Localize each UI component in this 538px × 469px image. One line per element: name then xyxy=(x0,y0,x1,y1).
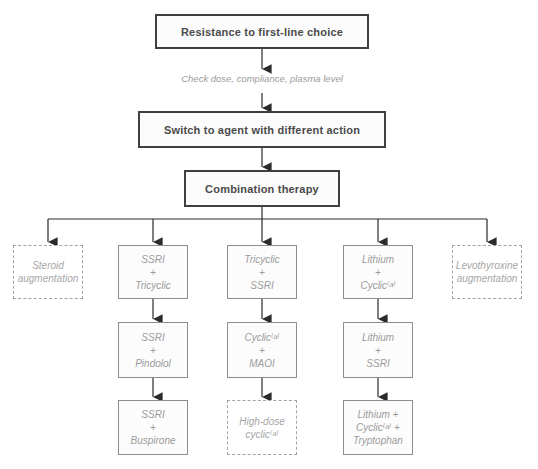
node-label: Tricyclic + SSRI xyxy=(228,253,296,292)
node-label: SSRI + Pindolol xyxy=(119,331,187,370)
node-label: Combination therapy xyxy=(186,183,338,195)
node-ssri-pindolol: SSRI + Pindolol xyxy=(118,322,188,378)
node-label: Lithium + SSRI xyxy=(344,331,412,370)
node-label: High-dose cyclic⁽ᵃ⁾ xyxy=(228,415,296,441)
node-tricyclic-ssri: Tricyclic + SSRI xyxy=(227,245,297,299)
node-levothyroxine-augmentation: Levothyroxine augmentation xyxy=(452,245,522,299)
node-switch-agent: Switch to agent with different action xyxy=(138,111,386,148)
node-high-dose-cyclic: High-dose cyclic⁽ᵃ⁾ xyxy=(227,400,297,455)
node-steroid-augmentation: Steroid augmentation xyxy=(13,245,83,299)
node-label: Lithium + Cyclic⁽ᵃ⁾ xyxy=(344,253,412,292)
node-label: Steroid augmentation xyxy=(14,259,82,285)
node-resistance-first-line: Resistance to first-line choice xyxy=(155,14,369,49)
node-combination-therapy: Combination therapy xyxy=(184,170,340,207)
node-cyclic-maoi: Cyclic⁽ᵃ⁾ + MAOI xyxy=(227,322,297,378)
node-label: Levothyroxine augmentation xyxy=(453,259,521,285)
node-label: Lithium + Cyclic⁽ᵃ⁾ + Tryptophan xyxy=(344,408,412,447)
node-lithium-cyclic: Lithium + Cyclic⁽ᵃ⁾ xyxy=(343,245,413,299)
node-lithium-cyclic-tryptophan: Lithium + Cyclic⁽ᵃ⁾ + Tryptophan xyxy=(343,400,413,455)
node-label: Resistance to first-line choice xyxy=(157,26,367,38)
node-lithium-ssri: Lithium + SSRI xyxy=(343,322,413,378)
connector-arrows xyxy=(0,0,538,469)
node-label: SSRI + Tricyclic xyxy=(119,253,187,292)
node-ssri-tricyclic: SSRI + Tricyclic xyxy=(118,245,188,299)
node-ssri-buspirone: SSRI + Buspirone xyxy=(118,400,188,455)
check-dose-note: Check dose, compliance, plasma level xyxy=(152,73,372,84)
node-label: SSRI + Buspirone xyxy=(119,408,187,447)
flowchart-canvas: Resistance to first-line choice Check do… xyxy=(0,0,538,469)
node-label: Cyclic⁽ᵃ⁾ + MAOI xyxy=(228,331,296,370)
node-label: Switch to agent with different action xyxy=(140,124,384,136)
